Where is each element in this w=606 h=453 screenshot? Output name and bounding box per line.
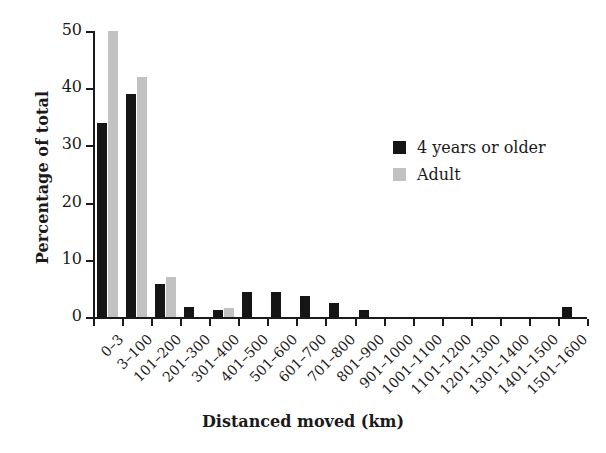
- bar-group: [93, 31, 122, 317]
- chart-legend: 4 years or olderAdult: [393, 138, 546, 192]
- bar: [166, 277, 176, 317]
- bar: [300, 296, 310, 317]
- bar: [213, 310, 223, 317]
- legend-item: 4 years or older: [393, 138, 546, 156]
- bar: [562, 307, 572, 317]
- x-axis-line: [93, 317, 587, 319]
- y-tick-label: 40: [42, 77, 82, 96]
- y-tick-label: 20: [42, 192, 82, 211]
- y-tick-mark: [86, 31, 93, 33]
- bar: [329, 303, 339, 317]
- x-tick-mark: [558, 319, 560, 326]
- legend-item: Adult: [393, 165, 546, 183]
- bar-group: [238, 31, 267, 317]
- bar: [224, 308, 234, 317]
- bar: [242, 292, 252, 317]
- bar: [155, 284, 165, 317]
- bar-group: [325, 31, 354, 317]
- y-tick-label: 50: [42, 20, 82, 39]
- x-tick-mark: [325, 319, 327, 326]
- x-tick-mark: [296, 319, 298, 326]
- x-axis-title: Distanced moved (km): [0, 412, 606, 431]
- y-tick-mark: [86, 203, 93, 205]
- x-tick-mark: [529, 319, 531, 326]
- bar: [359, 310, 369, 317]
- x-tick-mark: [93, 319, 95, 326]
- legend-label: Adult: [417, 165, 461, 184]
- y-tick-mark: [86, 317, 93, 319]
- y-tick-label: 0: [42, 306, 82, 325]
- x-tick-mark: [587, 319, 589, 326]
- bar-group: [355, 31, 384, 317]
- bar-group: [122, 31, 151, 317]
- x-tick-mark: [500, 319, 502, 326]
- y-tick-mark: [86, 88, 93, 90]
- bar: [108, 31, 118, 317]
- bar: [97, 123, 107, 317]
- bar-group: [151, 31, 180, 317]
- y-tick-mark: [86, 260, 93, 262]
- bar: [137, 77, 147, 317]
- x-tick-mark: [442, 319, 444, 326]
- x-tick-mark: [209, 319, 211, 326]
- x-tick-mark: [122, 319, 124, 326]
- bar: [184, 307, 194, 317]
- bar-group: [296, 31, 325, 317]
- bar-group: [209, 31, 238, 317]
- y-tick-mark: [86, 145, 93, 147]
- bar-chart-figure: Percentage of total 01020304050 0–33–100…: [0, 0, 606, 453]
- legend-swatch-icon: [393, 141, 406, 154]
- bar-group: [180, 31, 209, 317]
- y-tick-label: 10: [42, 249, 82, 268]
- x-tick-mark: [151, 319, 153, 326]
- y-tick-label: 30: [42, 134, 82, 153]
- x-tick-mark: [471, 319, 473, 326]
- x-tick-mark: [267, 319, 269, 326]
- bar-group: [558, 31, 587, 317]
- legend-swatch-icon: [393, 168, 406, 181]
- x-tick-mark: [413, 319, 415, 326]
- x-tick-mark: [238, 319, 240, 326]
- x-tick-mark: [180, 319, 182, 326]
- x-tick-mark: [355, 319, 357, 326]
- bar-group: [267, 31, 296, 317]
- x-tick-mark: [384, 319, 386, 326]
- legend-label: 4 years or older: [417, 138, 546, 157]
- bar: [126, 94, 136, 317]
- bar: [271, 292, 281, 317]
